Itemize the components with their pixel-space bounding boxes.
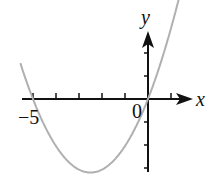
x-axis-label: x: [195, 88, 205, 110]
origin-label: 0: [132, 100, 142, 122]
y-axis-label: y: [139, 6, 150, 29]
parabola-chart: y x 0 −5: [0, 0, 222, 178]
tick-label-neg-five: −5: [18, 106, 39, 128]
parabola-curve: [20, 0, 183, 173]
